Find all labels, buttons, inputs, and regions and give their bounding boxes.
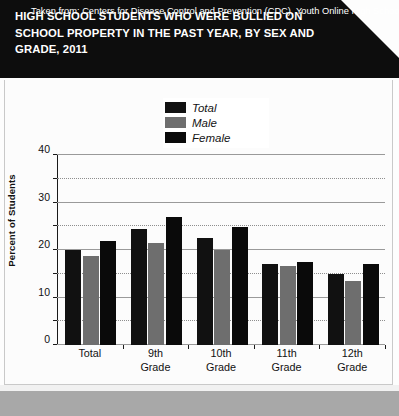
y-tick-15 bbox=[53, 273, 57, 274]
bar-female-9th-grade bbox=[166, 217, 182, 345]
bar-male-11th-grade bbox=[280, 266, 296, 345]
plot-area: 010203040Total9thGrade10thGrade11thGrade… bbox=[57, 155, 385, 345]
bar-group-total bbox=[65, 155, 116, 345]
y-tick-40 bbox=[53, 154, 57, 155]
bar-total-12th-grade bbox=[328, 274, 344, 345]
bar-total-10th-grade bbox=[197, 238, 213, 345]
bar-male-12th-grade bbox=[345, 281, 361, 345]
bar-female-total bbox=[100, 241, 116, 346]
y-tick-0 bbox=[53, 344, 57, 345]
bar-group-11th-grade bbox=[262, 155, 313, 345]
bar-male-10th-grade bbox=[214, 250, 230, 345]
x-axis-label-line: 12th bbox=[312, 347, 392, 361]
y-axis-title: Percent of Students bbox=[6, 161, 17, 281]
bar-female-11th-grade bbox=[297, 262, 313, 345]
legend-item-total: Total bbox=[165, 100, 267, 115]
x-axis-label-line: Grade bbox=[312, 361, 392, 375]
y-tick-label-20: 20 bbox=[38, 238, 50, 250]
y-tick-label-10: 10 bbox=[38, 286, 50, 298]
legend-label-total: Total bbox=[192, 102, 217, 114]
bar-female-12th-grade bbox=[363, 264, 379, 345]
chart-page: HIGH SCHOOL STUDENTS WHO WERE BULLIED ON… bbox=[0, 0, 399, 416]
legend-swatch-male bbox=[165, 117, 186, 128]
source-text: Taken from: Centers for Disease Control … bbox=[31, 6, 399, 16]
y-tick-5 bbox=[53, 320, 57, 321]
y-tick-label-30: 30 bbox=[38, 191, 50, 203]
bar-total-11th-grade bbox=[262, 264, 278, 345]
bar-male-total bbox=[83, 256, 99, 345]
bar-group-9th-grade bbox=[131, 155, 182, 345]
legend-item-female: Female bbox=[165, 130, 267, 145]
x-axis-label-12th-grade: 12thGrade bbox=[312, 347, 392, 374]
y-tick-10 bbox=[53, 297, 57, 298]
bar-female-10th-grade bbox=[232, 227, 248, 345]
y-tick-label-0: 0 bbox=[44, 333, 50, 345]
legend-swatch-total bbox=[165, 102, 186, 113]
y-tick-25 bbox=[53, 225, 57, 226]
legend-item-male: Male bbox=[165, 115, 267, 130]
legend-label-female: Female bbox=[192, 132, 230, 144]
y-tick-35 bbox=[53, 178, 57, 179]
y-tick-30 bbox=[53, 202, 57, 203]
source-band bbox=[0, 391, 399, 416]
bar-male-9th-grade bbox=[148, 243, 164, 345]
bar-total-9th-grade bbox=[131, 229, 147, 345]
legend-swatch-female bbox=[165, 132, 186, 143]
y-tick-20 bbox=[53, 249, 57, 250]
bar-group-12th-grade bbox=[328, 155, 379, 345]
y-tick-label-40: 40 bbox=[38, 143, 50, 155]
bar-group-10th-grade bbox=[197, 155, 248, 345]
legend-label-male: Male bbox=[192, 117, 217, 129]
bar-total-total bbox=[65, 250, 81, 345]
chart-legend: TotalMaleFemale bbox=[163, 98, 269, 148]
y-axis-line bbox=[57, 155, 58, 345]
